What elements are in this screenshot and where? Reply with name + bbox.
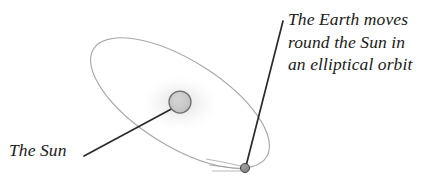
orbit-diagram-figure: The Earth moves round the Sun in an elli… [0,0,431,185]
sun-leader-line [84,106,177,156]
earth-orbit-caption: The Earth moves round the Sun in an elli… [288,8,412,76]
earth-dot [240,163,249,172]
earth-motion-trails [206,159,241,171]
earth-caption-line-3: an elliptical orbit [288,53,412,76]
earth-leader-line [246,21,283,166]
sun-caption: The Sun [9,142,67,160]
earth-caption-line-1: The Earth moves [288,8,412,31]
sun-circle [169,91,191,113]
earth-caption-line-2: round the Sun in [288,31,412,54]
